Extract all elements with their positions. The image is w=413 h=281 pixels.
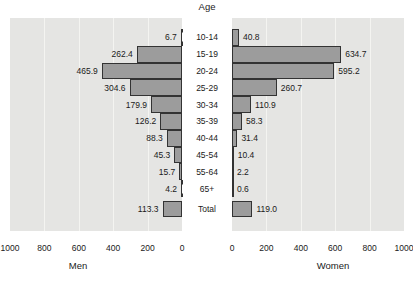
tick-women-800: 800 bbox=[363, 243, 377, 253]
bar-men-25-29 bbox=[130, 79, 182, 96]
bar-men-15-19 bbox=[137, 46, 182, 63]
value-women-15-19: 634.7 bbox=[345, 50, 366, 59]
age-label-15-19: 15-19 bbox=[182, 50, 232, 59]
value-men-total: 113.3 bbox=[138, 204, 159, 213]
bar-women-15-19 bbox=[232, 46, 341, 63]
age-pyramid-chart: Age 6.710-1440.8262.415-19634.7465.920-2… bbox=[0, 0, 413, 281]
bar-women-65- bbox=[232, 180, 234, 197]
bar-women-55-64 bbox=[232, 163, 234, 180]
bar-men-35-39 bbox=[160, 113, 182, 130]
tick-men-800: 800 bbox=[37, 243, 51, 253]
tick-women-0: 0 bbox=[230, 243, 235, 253]
value-men-55-64: 15.7 bbox=[159, 167, 176, 176]
bar-women-35-39 bbox=[232, 113, 242, 130]
value-women-20-24: 595.2 bbox=[338, 67, 359, 76]
value-women-35-39: 58.3 bbox=[246, 117, 263, 126]
value-men-20-24: 465.9 bbox=[77, 67, 98, 76]
chart-title-age: Age bbox=[182, 1, 232, 13]
x-axis-label-men: Men bbox=[69, 260, 87, 272]
gridline bbox=[79, 18, 80, 231]
gridline bbox=[44, 18, 45, 231]
bar-men-45-54 bbox=[174, 147, 182, 164]
bar-women-40-44 bbox=[232, 130, 237, 147]
value-women-65-: 0.6 bbox=[237, 184, 249, 193]
value-women-25-29: 260.7 bbox=[281, 83, 302, 92]
age-label-25-29: 25-29 bbox=[182, 83, 232, 92]
tick-men-400: 400 bbox=[106, 243, 120, 253]
age-label-35-39: 35-39 bbox=[182, 117, 232, 126]
bar-women-45-54 bbox=[232, 147, 234, 164]
age-label-20-24: 20-24 bbox=[182, 67, 232, 76]
age-label-40-44: 40-44 bbox=[182, 134, 232, 143]
value-men-25-29: 304.6 bbox=[104, 83, 125, 92]
bar-women-30-34 bbox=[232, 96, 251, 113]
bar-men-20-24 bbox=[102, 63, 182, 80]
value-women-total: 119.0 bbox=[256, 204, 277, 213]
tick-men-600: 600 bbox=[72, 243, 86, 253]
value-men-30-34: 179.9 bbox=[126, 100, 147, 109]
bar-men-40-44 bbox=[167, 130, 182, 147]
tick-men-200: 200 bbox=[141, 243, 155, 253]
value-women-40-44: 31.4 bbox=[241, 134, 258, 143]
value-women-45-54: 10.4 bbox=[238, 151, 255, 160]
value-men-45-54: 45.3 bbox=[154, 151, 171, 160]
bar-men-30-34 bbox=[151, 96, 182, 113]
age-label-45-54: 45-54 bbox=[182, 151, 232, 160]
tick-men-1000: 1000 bbox=[1, 243, 20, 253]
bar-men-total bbox=[163, 201, 182, 217]
age-label-30-34: 30-34 bbox=[182, 100, 232, 109]
bar-women-25-29 bbox=[232, 79, 277, 96]
value-men-65-: 4.2 bbox=[165, 184, 177, 193]
value-men-15-19: 262.4 bbox=[112, 50, 133, 59]
bar-women-20-24 bbox=[232, 63, 334, 80]
x-axis-label-women: Women bbox=[317, 260, 350, 272]
value-men-35-39: 126.2 bbox=[135, 117, 156, 126]
tick-men-0: 0 bbox=[180, 243, 185, 253]
bar-women-10-14 bbox=[232, 29, 239, 46]
gridline bbox=[370, 18, 371, 231]
tick-women-600: 600 bbox=[328, 243, 342, 253]
age-label-55-64: 55-64 bbox=[182, 167, 232, 176]
bar-women-total bbox=[232, 201, 252, 217]
value-women-10-14: 40.8 bbox=[243, 33, 260, 42]
tick-women-200: 200 bbox=[259, 243, 273, 253]
value-women-30-34: 110.9 bbox=[255, 100, 276, 109]
age-label-65-: 65+ bbox=[182, 184, 232, 193]
value-men-40-44: 88.3 bbox=[146, 134, 163, 143]
age-label-total: Total bbox=[182, 204, 232, 213]
tick-women-400: 400 bbox=[294, 243, 308, 253]
tick-women-1000: 1000 bbox=[395, 243, 413, 253]
age-label-10-14: 10-14 bbox=[182, 33, 232, 42]
value-men-10-14: 6.7 bbox=[165, 33, 177, 42]
value-women-55-64: 2.2 bbox=[237, 167, 249, 176]
